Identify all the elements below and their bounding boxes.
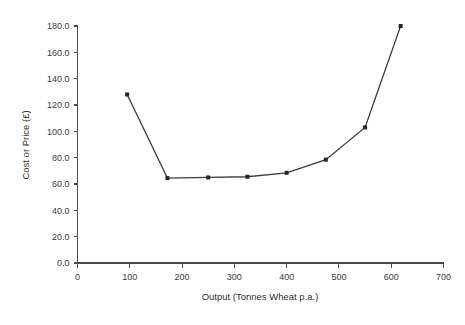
data-point-marker xyxy=(125,92,129,96)
y-axis-tick-label: 100.0 xyxy=(47,127,70,137)
cost-price-vs-output-line-chart: 0.020.040.060.080.0100.0120.0140.0160.01… xyxy=(0,0,465,325)
plot-area xyxy=(125,24,402,180)
data-point-marker xyxy=(206,175,210,179)
series-markers-cost-or-price xyxy=(125,24,402,180)
x-axis-title: Output (Tonnes Wheat p.a.) xyxy=(202,291,319,302)
chart-container: 0.020.040.060.080.0100.0120.0140.0160.01… xyxy=(0,0,465,325)
y-axis-tick-label: 20.0 xyxy=(52,232,70,242)
y-axis-tick-label: 140.0 xyxy=(47,74,70,84)
y-axis-title: Cost or Price (£) xyxy=(20,110,31,179)
x-axis-tick-label: 400 xyxy=(279,272,294,282)
x-axis-tick-label: 200 xyxy=(175,272,190,282)
x-axis-tick-label: 600 xyxy=(384,272,399,282)
data-point-marker xyxy=(245,175,249,179)
data-point-marker xyxy=(285,171,289,175)
x-axis-tick-label: 500 xyxy=(331,272,346,282)
y-axis-tick-label: 180.0 xyxy=(47,21,70,31)
x-axis-tick-label: 100 xyxy=(122,272,137,282)
y-axis: 0.020.040.060.080.0100.0120.0140.0160.01… xyxy=(20,21,78,268)
y-axis-tick-label: 40.0 xyxy=(52,206,70,216)
y-axis-tick-label: 60.0 xyxy=(52,179,70,189)
x-axis-tick-label: 300 xyxy=(227,272,242,282)
y-axis-tick-label: 160.0 xyxy=(47,48,70,58)
series-line-cost-or-price xyxy=(127,26,400,178)
y-axis-tick-label: 120.0 xyxy=(47,100,70,110)
y-axis-tick-label: 0.0 xyxy=(57,258,70,268)
data-point-marker xyxy=(399,24,403,28)
x-axis-ticks xyxy=(78,263,444,268)
x-axis-tick-label: 0 xyxy=(75,272,80,282)
y-axis-tick-label: 80.0 xyxy=(52,153,70,163)
y-axis-tick-labels: 0.020.040.060.080.0100.0120.0140.0160.01… xyxy=(47,21,70,268)
data-point-marker xyxy=(363,125,367,129)
x-axis: 0100200300400500600700 Output (Tonnes Wh… xyxy=(75,263,451,302)
x-axis-tick-labels: 0100200300400500600700 xyxy=(75,272,451,282)
data-point-marker xyxy=(324,158,328,162)
x-axis-tick-label: 700 xyxy=(436,272,451,282)
data-point-marker xyxy=(165,176,169,180)
